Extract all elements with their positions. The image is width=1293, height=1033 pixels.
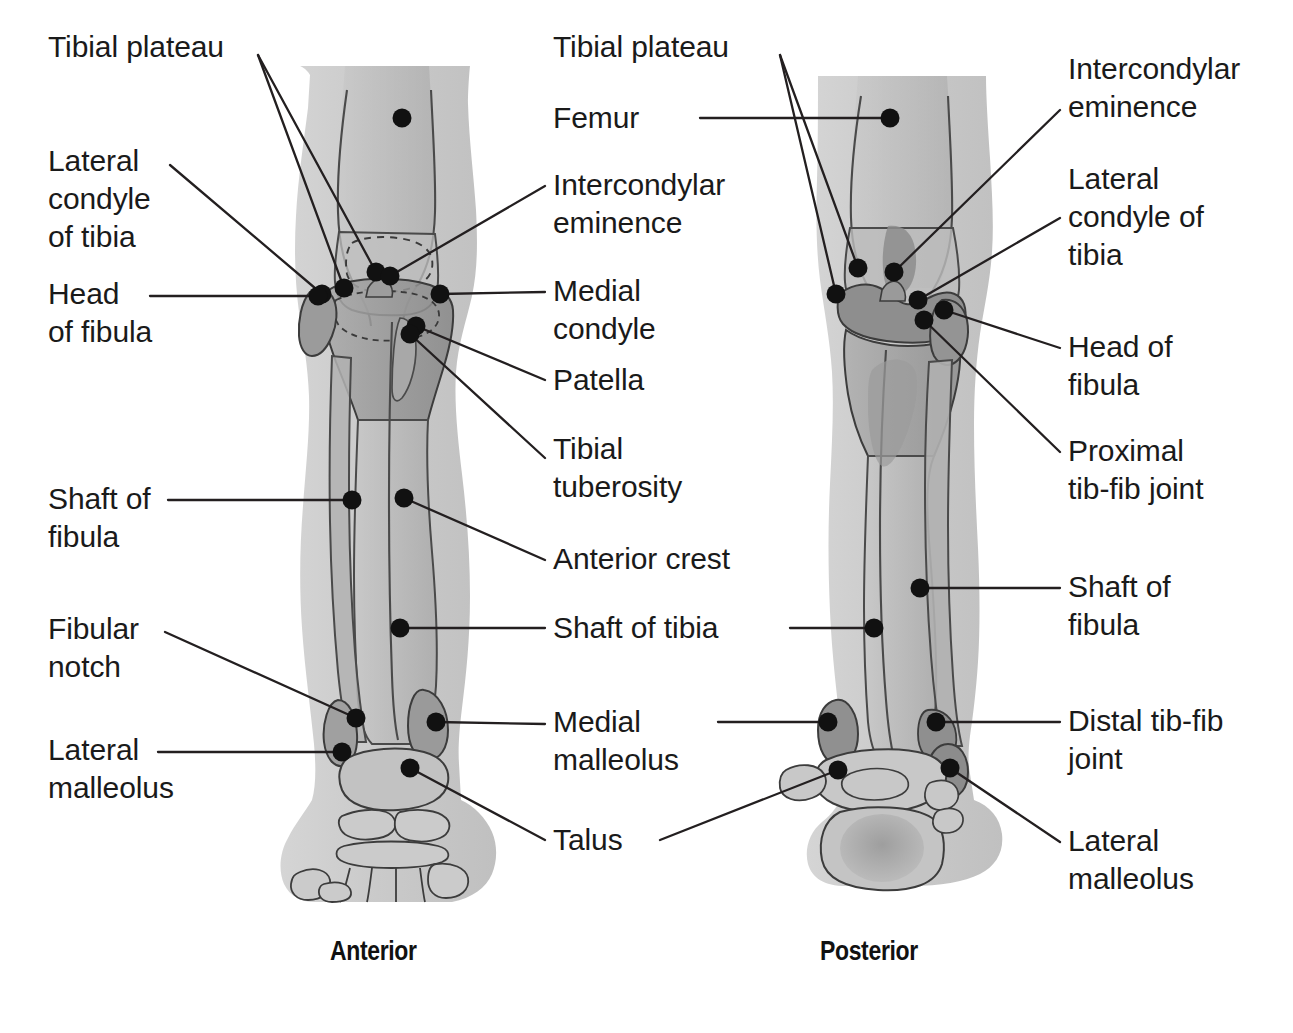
leader-talus-right-end	[660, 770, 838, 840]
dot-femur-anterior	[393, 109, 412, 128]
dot-talus-anterior	[401, 759, 420, 778]
dot-shaft-of-tibia-anterior	[391, 619, 410, 638]
dot-lateral-malleolus-posterior	[941, 759, 960, 778]
dot-medial-condyle-anterior	[431, 285, 450, 304]
label-shaft-of-fibula-left: Shaft of fibula	[48, 480, 151, 556]
caption-posterior: Posterior	[820, 935, 918, 967]
dot-head-of-fibula-anterior	[309, 287, 328, 306]
anterior-metatarsal-5	[428, 864, 468, 898]
posterior-lateral-foot-bone-2	[933, 808, 963, 833]
label-medial-condyle: Medial condyle	[553, 272, 656, 348]
dot-shaft-of-fibula-anterior	[343, 491, 362, 510]
dot-intercondylar-eminence-anterior	[381, 267, 400, 286]
posterior-calcaneus-shading	[840, 814, 924, 882]
anterior-tarsal-bone-2	[395, 810, 450, 841]
anterior-view-illustration	[281, 66, 497, 902]
posterior-lateral-foot-bone-1	[925, 780, 958, 810]
anterior-toe-phalanges-2	[319, 882, 351, 902]
label-tibial-plateau-center: Tibial plateau	[553, 28, 729, 66]
dot-femur-posterior	[881, 109, 900, 128]
dot-head-of-fibula-posterior	[935, 301, 954, 320]
dot-proximal-tib-fib-joint	[915, 311, 934, 330]
dot-lateral-malleolus-anterior	[333, 743, 352, 762]
dot-fibular-notch	[347, 709, 366, 728]
label-intercondylar-eminence-right: Intercondylar eminence	[1068, 50, 1240, 126]
label-tibial-plateau-left: Tibial plateau	[48, 28, 224, 66]
label-anterior-crest: Anterior crest	[553, 540, 730, 578]
label-shaft-of-tibia: Shaft of tibia	[553, 609, 718, 647]
label-head-of-fibula-right: Head of fibula	[1068, 328, 1172, 404]
label-medial-malleolus: Medial malleolus	[553, 703, 679, 779]
label-fibular-notch: Fibular notch	[48, 610, 139, 686]
dot-shaft-of-fibula-posterior	[911, 579, 930, 598]
dot-intercondylar-eminence-posterior	[885, 263, 904, 282]
label-patella: Patella	[553, 361, 644, 399]
label-lateral-condyle-of-tibia-left: Lateral condyle of tibia	[48, 142, 151, 256]
dot-anterior-crest	[395, 489, 414, 508]
caption-anterior: Anterior	[330, 935, 417, 967]
dot-tibial-plateau-anterior-b	[335, 279, 354, 298]
anatomy-figure: Tibial plateau Lateral condyle of tibia …	[0, 0, 1293, 1033]
label-lateral-condyle-of-tibia-right: Lateral condyle of tibia	[1068, 160, 1204, 274]
label-shaft-of-fibula-right: Shaft of fibula	[1068, 568, 1171, 644]
dot-tibial-plateau-posterior-a	[849, 259, 868, 278]
dot-talus-posterior	[829, 761, 848, 780]
label-proximal-tib-fib-joint: Proximal tib-fib joint	[1068, 432, 1203, 508]
dot-tibial-plateau-posterior-b	[827, 285, 846, 304]
label-intercondylar-eminence-center: Intercondylar eminence	[553, 166, 725, 242]
anterior-tarsal-bone-3	[337, 842, 449, 869]
label-lateral-malleolus-right: Lateral malleolus	[1068, 822, 1194, 898]
dot-distal-tib-fib-joint	[927, 713, 946, 732]
dot-lateral-condyle-posterior	[909, 291, 928, 310]
label-tibial-tuberosity: Tibial tuberosity	[553, 430, 682, 506]
label-head-of-fibula-left: Head of fibula	[48, 275, 152, 351]
dot-medial-malleolus-posterior	[819, 713, 838, 732]
anterior-tarsal-bone-1	[339, 810, 395, 840]
dot-shaft-of-tibia-posterior	[865, 619, 884, 638]
label-lateral-malleolus-left: Lateral malleolus	[48, 731, 174, 807]
dot-tibial-tuberosity-anterior	[401, 325, 420, 344]
label-femur: Femur	[553, 99, 639, 137]
label-talus: Talus	[553, 821, 623, 859]
dot-medial-malleolus-anterior	[427, 713, 446, 732]
label-distal-tib-fib-joint: Distal tib-fib joint	[1068, 702, 1223, 778]
